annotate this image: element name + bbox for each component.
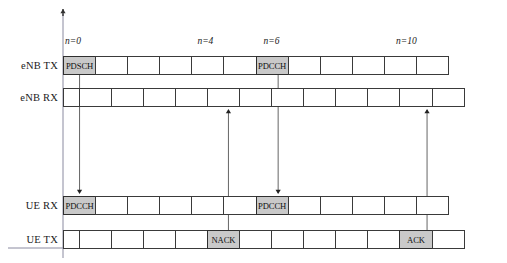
subframe-cell	[207, 88, 240, 107]
subframe-cell	[367, 88, 400, 107]
subframe-cell	[127, 56, 160, 75]
subframe-cell	[223, 56, 256, 75]
subframe-cell	[95, 196, 128, 215]
subframe-cell	[175, 230, 208, 249]
subframe-cell	[79, 230, 112, 249]
cell-pdcch: PDCCH	[63, 196, 96, 215]
row-label-ue-rx: UE RX	[6, 200, 58, 211]
subframe-cell	[352, 196, 385, 215]
subframe-cell	[143, 230, 176, 249]
subframe-cell	[288, 56, 321, 75]
subframe-cell	[303, 88, 336, 107]
subframe-cell	[320, 196, 353, 215]
pdsch-downlink-arrow-head	[77, 190, 82, 194]
cell-pdcch: PDCCH	[256, 56, 289, 75]
subframe-cell	[95, 56, 128, 75]
timeline-ue-rx: PDCCHPDCCH	[63, 196, 449, 215]
subframe-cell	[191, 56, 224, 75]
subframe-cell	[399, 88, 432, 107]
cell-ack: ACK	[399, 230, 432, 249]
subframe-tick-label: n=10	[396, 36, 417, 46]
subframe-cell	[320, 56, 353, 75]
subframe-tick-label: n=4	[197, 36, 213, 46]
subframe-cell	[111, 230, 144, 249]
timing-diagram: eNB TXPDSCHPDCCHeNB RXUE RXPDCCHPDCCHUE …	[0, 0, 507, 263]
subframe-cell	[432, 88, 465, 107]
subframe-cell	[223, 196, 256, 215]
ack-uplink-arrow-head	[424, 109, 429, 113]
subframe-cell	[432, 230, 465, 249]
subframe-cell	[367, 230, 400, 249]
pdcch-downlink-arrow-head	[276, 190, 281, 194]
row-label-enb-rx: eNB RX	[6, 92, 58, 103]
timing-offset-cell	[63, 230, 80, 249]
subframe-cell	[384, 56, 417, 75]
subframe-tick-label: n=6	[264, 36, 280, 46]
subframe-cell	[335, 88, 368, 107]
row-label-enb-tx: eNB TX	[6, 60, 58, 71]
subframe-cell	[271, 230, 304, 249]
subframe-cell	[159, 196, 192, 215]
timeline-enb-tx: PDSCHPDCCH	[63, 56, 449, 75]
subframe-cell	[335, 230, 368, 249]
subframe-cell	[303, 230, 336, 249]
nack-uplink-arrow-head	[226, 109, 231, 113]
subframe-cell	[127, 196, 160, 215]
subframe-cell	[416, 56, 449, 75]
subframe-cell	[352, 56, 385, 75]
cell-pdcch: PDCCH	[256, 196, 289, 215]
timeline-enb-rx	[63, 88, 465, 107]
subframe-cell	[271, 88, 304, 107]
subframe-cell	[159, 56, 192, 75]
cell-pdsch: PDSCH	[63, 56, 96, 75]
timing-offset-cell	[63, 88, 80, 107]
time-axis-arrowhead	[60, 9, 65, 13]
subframe-cell	[143, 88, 176, 107]
subframe-tick-label: n=0	[65, 36, 81, 46]
subframe-cell	[175, 88, 208, 107]
subframe-cell	[239, 230, 272, 249]
row-label-ue-tx: UE TX	[6, 234, 58, 245]
subframe-cell	[416, 196, 449, 215]
subframe-cell	[239, 88, 272, 107]
subframe-cell	[191, 196, 224, 215]
subframe-cell	[79, 88, 112, 107]
timeline-ue-tx: NACKACK	[63, 230, 465, 249]
subframe-cell	[288, 196, 321, 215]
subframe-cell	[384, 196, 417, 215]
cell-nack: NACK	[207, 230, 240, 249]
subframe-cell	[111, 88, 144, 107]
